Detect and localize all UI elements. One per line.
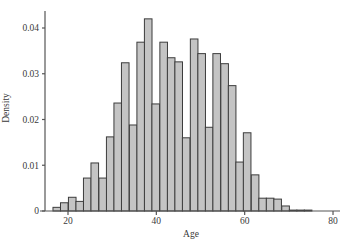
histogram-bar	[121, 63, 129, 211]
x-tick-label: 60	[240, 216, 250, 226]
histogram-bar	[259, 198, 267, 211]
histogram-bar	[137, 42, 145, 211]
histogram-bar	[228, 86, 236, 211]
histogram-bar	[106, 137, 114, 211]
histogram-bar	[114, 103, 122, 211]
histogram-bar	[152, 104, 160, 211]
histogram-bar	[160, 42, 168, 211]
histogram-bar	[182, 138, 190, 211]
histogram-bar	[243, 133, 251, 211]
histogram-bar	[91, 163, 99, 211]
histogram-bar	[175, 62, 183, 211]
y-tick-label: 0.04	[22, 23, 39, 33]
histogram-bar	[282, 206, 290, 211]
histogram-bar	[251, 175, 259, 211]
x-axis-label: Age	[183, 229, 199, 239]
histogram-bar	[190, 39, 198, 211]
histogram-bar	[68, 197, 76, 211]
histogram-bar	[236, 162, 244, 211]
y-axis-label: Density	[1, 93, 11, 123]
histogram-bar	[129, 125, 137, 211]
histogram-bar	[198, 54, 206, 211]
x-tick-label: 20	[63, 216, 73, 226]
histogram-bars	[53, 19, 312, 211]
histogram-bar	[99, 178, 107, 211]
histogram-bar	[144, 19, 152, 211]
y-axis-ticks: 00.010.020.030.04	[22, 23, 45, 216]
histogram-bar	[83, 178, 91, 211]
y-tick-label: 0.02	[22, 115, 39, 125]
x-tick-label: 80	[328, 216, 338, 226]
histogram-bar	[221, 64, 229, 211]
histogram-bar	[76, 201, 84, 211]
y-tick-label: 0.03	[22, 69, 39, 79]
x-tick-label: 40	[152, 216, 162, 226]
x-axis-ticks: 20406080	[63, 211, 338, 226]
histogram-bar	[205, 127, 213, 211]
histogram-bar	[266, 198, 274, 211]
histogram-bar	[167, 58, 175, 211]
y-tick-label: 0.01	[22, 161, 39, 171]
y-tick-label: 0	[34, 206, 39, 216]
histogram-bar	[274, 199, 282, 211]
histogram-bar	[213, 54, 221, 211]
histogram-bar	[60, 203, 68, 211]
histogram-chart: 00.010.020.030.04 20406080 Age Density	[0, 0, 350, 245]
